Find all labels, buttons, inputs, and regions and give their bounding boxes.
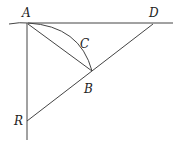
line-DR bbox=[27, 24, 153, 121]
label-B: B bbox=[83, 82, 93, 96]
label-C: C bbox=[80, 37, 89, 51]
label-D: D bbox=[148, 6, 159, 20]
label-R: R bbox=[13, 114, 23, 128]
geometry-diagram: A D C B R bbox=[0, 0, 181, 146]
label-A: A bbox=[21, 6, 31, 20]
